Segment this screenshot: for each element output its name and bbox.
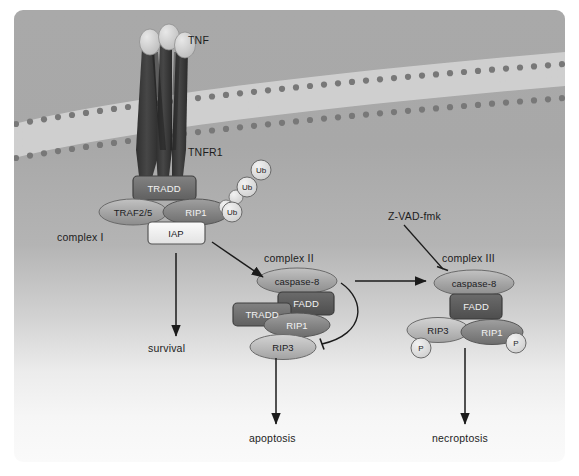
- label-tnfr1: TNFR1: [188, 146, 223, 158]
- label-complex-i: complex I: [57, 231, 104, 243]
- text-tradd-complex-ii: TRADD: [245, 309, 278, 320]
- text-rip1-complex-iii: RIP1: [481, 327, 503, 338]
- text-rip1-complex-i: RIP1: [185, 207, 207, 218]
- label-survival: survival: [148, 342, 185, 354]
- text-rip1-complex-ii: RIP1: [286, 320, 308, 331]
- text-phospho-rip1: P: [513, 339, 518, 348]
- label-necroptosis: necroptosis: [432, 432, 488, 444]
- text-caspase8-complex-ii: caspase-8: [275, 276, 320, 287]
- text-rip3-complex-ii: RIP3: [272, 342, 294, 353]
- text-ub-1: Ub: [227, 208, 237, 217]
- text-iap: IAP: [168, 228, 184, 239]
- arrow-complex-i-to-ii: [212, 242, 263, 277]
- text-caspase8-complex-iii: caspase-8: [452, 278, 497, 289]
- label-complex-ii: complex II: [264, 252, 314, 264]
- label-apoptosis: apoptosis: [249, 432, 296, 444]
- signaling-pathway-figure: TNF TNFR1 complex I complex II complex I…: [0, 0, 579, 476]
- tnfr1-receptor: [136, 44, 188, 185]
- text-rip3-complex-iii: RIP3: [427, 325, 449, 336]
- lipid-bilayer: [13, 52, 565, 161]
- text-ub-3: Ub: [256, 166, 266, 175]
- text-traf25: TRAF2/5: [114, 207, 153, 218]
- text-fadd-complex-iii: FADD: [463, 301, 489, 312]
- text-phospho-rip3: P: [418, 344, 423, 353]
- text-fadd-complex-ii: FADD: [293, 298, 319, 309]
- text-tradd-complex-i: TRADD: [147, 183, 180, 194]
- label-tnf: TNF: [188, 34, 209, 46]
- label-complex-iii: complex III: [442, 252, 495, 264]
- label-zvadfmk: Z-VAD-fmk: [388, 210, 441, 222]
- text-ub-2: Ub: [242, 183, 252, 192]
- complex-i-group: [99, 160, 271, 244]
